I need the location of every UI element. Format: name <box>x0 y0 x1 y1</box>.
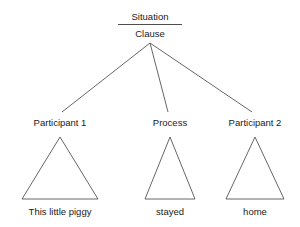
terminal-labels-group: This little piggy stayed home <box>29 206 267 217</box>
triangles-group <box>22 137 284 199</box>
branch-lines-group <box>62 43 252 112</box>
triangle-process <box>145 137 195 199</box>
triangle-participant-1 <box>22 137 98 199</box>
root-upper-label: Situation <box>132 11 169 22</box>
tree-canvas: Situation Clause Participant 1 Process P… <box>0 0 300 227</box>
clause-tree-diagram: Situation Clause Participant 1 Process P… <box>0 0 300 227</box>
root-lower-label: Clause <box>135 28 165 39</box>
triangle-participant-2 <box>226 137 284 199</box>
node-label-participant-1: Participant 1 <box>34 117 87 128</box>
constituent-labels-group: Participant 1 Process Participant 2 <box>34 117 282 128</box>
terminal-label-participant-1: This little piggy <box>29 206 92 217</box>
branch-line-participant-1 <box>62 43 150 112</box>
node-label-participant-2: Participant 2 <box>229 117 282 128</box>
terminal-label-process: stayed <box>156 206 184 217</box>
root-node: Situation Clause <box>118 11 182 39</box>
node-label-process: Process <box>153 117 188 128</box>
terminal-label-participant-2: home <box>243 206 267 217</box>
